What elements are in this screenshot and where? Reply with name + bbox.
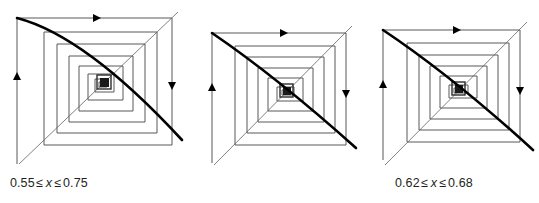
right-arrow-1 <box>168 82 176 90</box>
caption-upper-bound-2: 0.68 <box>448 176 473 190</box>
right-arrow-3 <box>516 87 524 95</box>
caption-upper-bound-1: 0.75 <box>63 176 88 190</box>
caption-variable-1: x <box>45 176 53 190</box>
cobweb-plot-2 <box>196 0 362 175</box>
cobweb-plot-3 <box>367 0 539 175</box>
cobweb-plot-1 <box>0 0 190 175</box>
top-arrow-2 <box>280 29 288 37</box>
left-arrow-2 <box>208 83 216 91</box>
caption-rel-right-1: ≤ <box>53 176 63 190</box>
cobweb-panel-2: 0.62≤x≤0.68 <box>196 0 362 175</box>
panel-caption-2: 0.62≤x≤0.68 <box>395 176 473 190</box>
caption-lower-bound-1: 0.55 <box>10 176 35 190</box>
diagonal-line-1 <box>19 12 178 164</box>
top-arrow-1 <box>93 14 101 22</box>
caption-rel-right-2: ≤ <box>438 176 448 190</box>
left-arrow-3 <box>379 80 387 88</box>
panel-caption-1: 0.55≤x≤0.75 <box>10 176 88 190</box>
caption-variable-2: x <box>430 176 438 190</box>
left-arrow-1 <box>13 72 21 80</box>
caption-rel-left-2: ≤ <box>420 176 430 190</box>
cobweb-panel-3: 0.633≤x≤0.65 <box>367 0 539 175</box>
cobweb-figure: 0.55≤x≤0.75 0.62≤x≤0.68 <box>0 0 539 203</box>
top-arrow-3 <box>453 26 461 34</box>
caption-lower-bound-2: 0.62 <box>395 176 420 190</box>
fixed-point-blob-1 <box>100 78 109 87</box>
right-arrow-2 <box>342 90 350 98</box>
caption-rel-left-1: ≤ <box>35 176 45 190</box>
cobweb-panel-1: 0.55≤x≤0.75 <box>0 0 190 175</box>
